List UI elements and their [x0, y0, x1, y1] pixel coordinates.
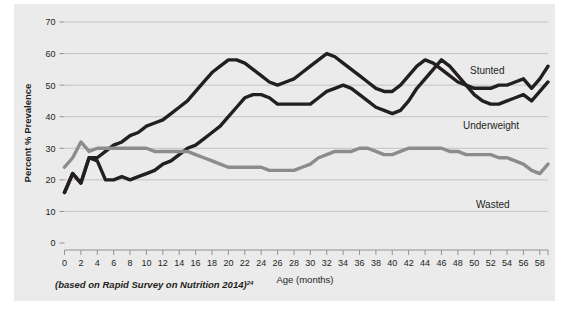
x-tick-label: 36 [355, 258, 365, 268]
chart-plot-area: 010203040506070 024681012141618202224262… [0, 0, 568, 322]
footnote-superscript: 24 [246, 280, 254, 286]
x-tick-label: 0 [62, 258, 67, 268]
x-tick-label: 12 [158, 258, 168, 268]
x-tick-label: 18 [207, 258, 217, 268]
x-tick-label: 46 [436, 258, 446, 268]
x-tick-label: 52 [486, 258, 496, 268]
gridlines-group [65, 22, 549, 211]
x-axis-title: Age (months) [276, 274, 333, 285]
x-tick-label: 28 [289, 258, 299, 268]
y-tick-label: 60 [45, 49, 55, 59]
line-chart-svg: 010203040506070 024681012141618202224262… [0, 0, 568, 322]
x-tick-label: 6 [111, 258, 116, 268]
y-axis-title: Percent % Prevalence [22, 84, 33, 183]
x-tick-label: 14 [174, 258, 184, 268]
y-tick-label: 20 [45, 175, 55, 185]
x-tick-label: 10 [141, 258, 151, 268]
y-axis-group: 010203040506070 [45, 17, 64, 248]
figure-footnote: (based on Rapid Survey on Nutrition 2014… [55, 279, 254, 290]
x-tick-label: 26 [273, 258, 283, 268]
x-tick-label: 4 [95, 258, 100, 268]
y-tick-label: 30 [45, 144, 55, 154]
series-label-wasted: Wasted [476, 199, 510, 210]
y-tick-label: 70 [45, 17, 55, 27]
y-tick-label: 40 [45, 112, 55, 122]
x-tick-label: 42 [404, 258, 414, 268]
x-tick-label: 16 [191, 258, 201, 268]
series-line-wasted [65, 142, 549, 174]
x-tick-label: 50 [469, 258, 479, 268]
x-tick-label: 56 [518, 258, 528, 268]
y-tick-label: 50 [45, 81, 55, 91]
x-tick-label: 44 [420, 258, 430, 268]
series-label-underweight: Underweight [463, 120, 519, 131]
x-tick-label: 2 [78, 258, 83, 268]
x-tick-label: 30 [305, 258, 315, 268]
x-tick-label: 32 [322, 258, 332, 268]
series-label-stunted: Stunted [470, 65, 504, 76]
x-tick-label: 22 [240, 258, 250, 268]
x-tick-label: 58 [535, 258, 545, 268]
x-axis-group: 0246810121416182022242628303234363840424… [62, 250, 548, 268]
x-tick-label: 48 [453, 258, 463, 268]
x-tick-label: 54 [502, 258, 512, 268]
x-tick-label: 8 [128, 258, 133, 268]
x-tick-label: 38 [371, 258, 381, 268]
figure-root: 010203040506070 024681012141618202224262… [0, 0, 568, 322]
y-tick-label: 0 [50, 238, 55, 248]
x-tick-label: 40 [387, 258, 397, 268]
footnote-main-text: (based on Rapid Survey on Nutrition 2014… [55, 279, 247, 290]
x-tick-label: 20 [223, 258, 233, 268]
x-tick-label: 24 [256, 258, 266, 268]
y-tick-label: 10 [45, 207, 55, 217]
x-tick-label: 34 [338, 258, 348, 268]
